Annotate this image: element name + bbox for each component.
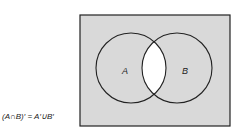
- formula-caption: (A∩B)′ = A′∪B′: [2, 112, 54, 121]
- set-b-label: B: [182, 66, 188, 76]
- set-a-label: A: [121, 66, 128, 76]
